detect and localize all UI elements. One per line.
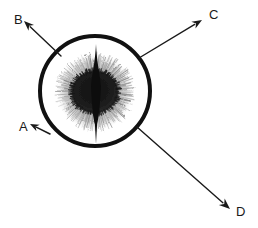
core-fringe-tuft (71, 99, 74, 100)
figure-canvas: ABCD (0, 0, 258, 228)
core-fringe-tuft (116, 86, 118, 87)
label-d: D (236, 204, 245, 219)
label-b: B (14, 12, 23, 27)
core-fringe-tuft (71, 87, 73, 88)
core-fringe-tuft (71, 96, 74, 97)
halo-ray (118, 90, 125, 91)
core-fringe-tuft (112, 104, 113, 105)
core-fringe-tuft (90, 69, 91, 72)
core-fringe-tuft (92, 68, 93, 72)
label-c: C (209, 7, 218, 22)
label-a: A (19, 119, 28, 134)
core-fringe-tuft (114, 81, 116, 82)
core-fringe-tuft (91, 111, 92, 114)
figure-container: ABCD (0, 0, 258, 228)
